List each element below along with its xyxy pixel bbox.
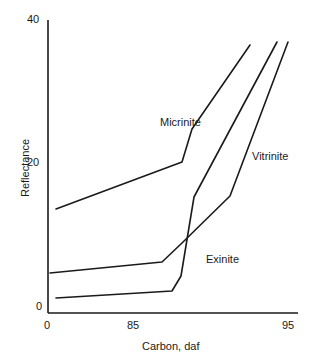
x-tick-label-0: 0 [44,320,50,331]
chart-figure: 40 20 0 0 85 95 Carbon, daf Reflectance … [0,0,309,361]
chart-plot-area [0,0,309,361]
x-axis-title: Carbon, daf [142,341,199,352]
y-tick-label-40: 40 [27,14,39,25]
series-label-exinite: Exinite [206,254,239,265]
series-label-micrinite: Micrinite [160,117,201,128]
series-line-micrinite [56,45,250,209]
y-axis-title: Reflectance [20,139,31,197]
series-line-exinite [56,42,277,298]
x-tick-label-95: 95 [282,320,294,331]
y-tick-label-0: 0 [36,301,42,312]
x-tick-label-85: 85 [127,320,139,331]
series-label-vitrinite: Vitrinite [252,151,288,162]
